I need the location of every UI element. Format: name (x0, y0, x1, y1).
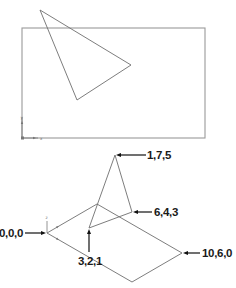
ucs-x-arrow-iso-icon (56, 226, 59, 229)
iso-view: z 0,0,0 1,7,5 6,4,3 3,2,1 (0, 149, 232, 282)
ucs-origin-marker-icon (21, 137, 24, 140)
arrowhead-icon (87, 229, 91, 234)
arrowhead-icon (41, 231, 46, 235)
point-label: 0,0,0 (0, 227, 23, 239)
arrowhead-icon (183, 251, 188, 255)
triangle-3d (89, 155, 132, 228)
point-label: 1,7,5 (147, 149, 172, 161)
edge-175-321 (89, 155, 115, 228)
ucs-icon-top: y x (21, 115, 44, 141)
point-label: 3,2,1 (78, 255, 103, 267)
triangle-plan (40, 10, 131, 100)
drawing-canvas: y x z 0,0,0 1,7,5 (0, 0, 236, 288)
callout-6-4-3: 6,4,3 (133, 206, 178, 218)
ucs-z-label: z (46, 215, 48, 220)
point-label: 6,4,3 (154, 206, 178, 218)
callout-1-7-5: 1,7,5 (116, 149, 172, 161)
ucs-y-arrow-icon (21, 121, 23, 124)
top-view: y x (21, 10, 206, 141)
point-label: 10,6,0 (202, 247, 232, 259)
callout-3-2-1: 3,2,1 (78, 229, 103, 267)
arrowhead-icon (133, 210, 138, 214)
edge-175-643 (115, 155, 132, 212)
ucs-x-arrow-icon (33, 137, 36, 139)
ucs-y-arrow-iso-icon (56, 237, 59, 240)
callout-0-0-0: 0,0,0 (0, 227, 46, 239)
arrowhead-icon (116, 153, 121, 157)
top-view-frame (22, 28, 205, 138)
callout-10-6-0: 10,6,0 (183, 247, 232, 259)
ucs-y-label: y (21, 115, 24, 120)
